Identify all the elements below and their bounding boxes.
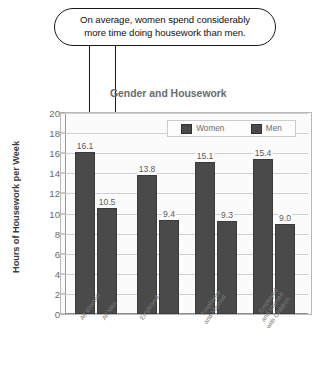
y-tick-label: 4 (55, 268, 60, 279)
y-tick-mark (61, 113, 65, 114)
bar-value-label: 13.8 (138, 164, 157, 174)
bar-value-label: 10.5 (98, 197, 117, 207)
y-tick-mark (61, 273, 65, 274)
y-tick-label: 0 (55, 309, 60, 320)
y-axis-title: Hours of Housework per Week (8, 112, 24, 302)
annotation-callout: On average, women spend considerably mor… (54, 8, 276, 46)
y-tick-mark (61, 293, 65, 294)
y-tick-label: 16 (49, 148, 60, 159)
legend-swatch-icon (181, 124, 192, 134)
y-tick-mark (61, 253, 65, 254)
bar-value-label: 9.3 (220, 210, 234, 220)
y-tick-label: 2 (55, 288, 60, 299)
y-tick-label: 10 (49, 208, 60, 219)
legend-label: Women (196, 124, 224, 133)
y-tick-mark (61, 213, 65, 214)
legend-swatch-icon (251, 124, 262, 134)
bar-value-label: 15.4 (254, 148, 273, 158)
callout-line-2: more time doing housework than men. (84, 27, 245, 40)
y-tick-label: 20 (49, 108, 60, 119)
bar (159, 220, 179, 314)
bar-value-label: 9.0 (278, 213, 292, 223)
gridline (65, 113, 308, 114)
y-tick-mark (61, 233, 65, 234)
bar (75, 152, 95, 314)
y-tick-mark (61, 173, 65, 174)
bar-value-label: 9.4 (162, 209, 176, 219)
y-tick-label: 6 (55, 248, 60, 259)
legend-label: Men (266, 124, 282, 133)
chart-title: Gender and Housework (110, 88, 227, 99)
y-tick-mark (61, 193, 65, 194)
bar-value-label: 16.1 (76, 141, 95, 151)
y-tick-label: 12 (49, 188, 60, 199)
y-tick-label: 18 (49, 128, 60, 139)
bar-value-label: 15.1 (196, 151, 215, 161)
y-tick-mark (61, 133, 65, 134)
legend-item: Men (251, 124, 282, 134)
y-tick-mark (61, 314, 65, 315)
y-tick-label: 8 (55, 228, 60, 239)
y-tick-mark (61, 153, 65, 154)
y-tick-label: 14 (49, 168, 60, 179)
bar (195, 162, 215, 314)
plot-area: 0246810121416182016.110.513.89.415.19.31… (65, 113, 308, 314)
callout-line-1: On average, women spend considerably (80, 14, 250, 27)
legend-item: Women (181, 124, 224, 134)
chart-legend: WomenMen (167, 120, 296, 137)
